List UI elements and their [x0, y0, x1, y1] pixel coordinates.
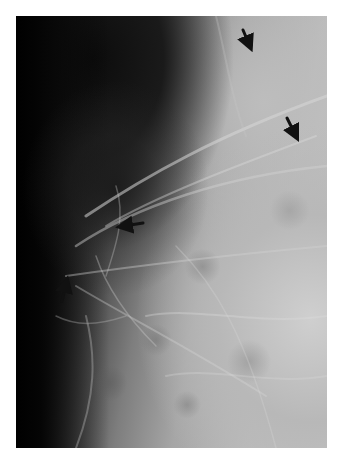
arrow-icon-top-right [243, 30, 249, 44]
annotation-arrows [0, 0, 342, 462]
arrow-icon-center [124, 223, 143, 226]
arrow-icon-right [287, 118, 295, 134]
arrow-icon-lower-left [62, 284, 66, 301]
